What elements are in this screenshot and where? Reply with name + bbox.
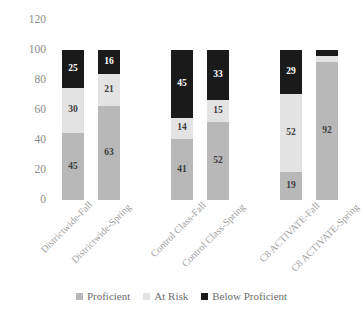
legend-label: Proficient	[87, 291, 130, 302]
y-tick-20: 20	[2, 164, 46, 176]
legend-swatch-proficient	[76, 293, 83, 300]
segment-at-risk: 52	[280, 94, 302, 172]
segment-value: 16	[104, 57, 114, 67]
segment-value: 41	[177, 165, 187, 175]
segment-value: 19	[286, 181, 296, 191]
stacked-bar-chart: 120 100 80 60 40 20 0 25 30 45 16 21	[0, 0, 363, 315]
segment-value: 45	[68, 162, 78, 172]
segment-proficient: 92	[316, 62, 338, 200]
plot-area: 25 30 45 16 21 63 45	[50, 20, 361, 200]
bar-c8-activate-spring[interactable]: 4 4 92	[316, 50, 338, 200]
y-tick-0: 0	[2, 194, 46, 206]
segment-value: 52	[213, 156, 223, 166]
segment-value: 15	[213, 106, 223, 116]
segment-proficient: 52	[207, 122, 229, 200]
bar-districtwide-fall[interactable]: 25 30 45	[62, 50, 84, 200]
segment-proficient: 41	[171, 139, 193, 201]
segment-at-risk: 15	[207, 100, 229, 123]
bar-control-class-fall[interactable]: 45 14 41	[171, 50, 193, 200]
x-axis: Districtwide-Fall Districtwide-Spring Co…	[50, 200, 361, 288]
segment-proficient: 45	[62, 133, 84, 201]
segment-value: 29	[286, 67, 296, 77]
segment-value: 92	[322, 126, 332, 136]
legend-label: Below Proficient	[212, 291, 287, 302]
y-tick-120: 120	[2, 14, 46, 26]
y-tick-60: 60	[2, 104, 46, 116]
legend-item-proficient[interactable]: Proficient	[76, 291, 130, 302]
legend-item-at-risk[interactable]: At Risk	[143, 291, 188, 302]
segment-proficient: 19	[280, 172, 302, 201]
segment-at-risk: 30	[62, 88, 84, 133]
legend-swatch-at-risk	[143, 293, 150, 300]
segment-value: 52	[286, 128, 296, 138]
y-tick-80: 80	[2, 74, 46, 86]
bar-control-class-spring[interactable]: 33 15 52	[207, 50, 229, 200]
segment-value: 63	[104, 148, 114, 158]
y-tick-100: 100	[2, 44, 46, 56]
bar-c8-activate-fall[interactable]: 29 52 19	[280, 50, 302, 200]
segment-at-risk: 21	[98, 74, 120, 106]
segment-value: 45	[177, 79, 187, 89]
y-tick-40: 40	[2, 134, 46, 146]
bar-districtwide-spring[interactable]: 16 21 63	[98, 50, 120, 200]
segment-value: 14	[177, 123, 187, 133]
segment-below-proficient: 33	[207, 50, 229, 100]
legend-item-below-proficient[interactable]: Below Proficient	[201, 291, 287, 302]
segment-value: 25	[68, 64, 78, 74]
segment-below-proficient: 45	[171, 50, 193, 118]
segment-at-risk: 14	[171, 118, 193, 139]
legend: Proficient At Risk Below Proficient	[0, 291, 363, 302]
segment-below-proficient: 29	[280, 50, 302, 94]
segment-below-proficient: 25	[62, 50, 84, 88]
segment-value: 33	[213, 70, 223, 80]
legend-label: At Risk	[154, 291, 188, 302]
segment-proficient: 63	[98, 106, 120, 201]
legend-swatch-below-proficient	[201, 293, 208, 300]
y-axis: 120 100 80 60 40 20 0	[0, 20, 46, 200]
segment-value: 30	[68, 105, 78, 115]
segment-value: 21	[104, 85, 114, 95]
segment-below-proficient: 16	[98, 50, 120, 74]
